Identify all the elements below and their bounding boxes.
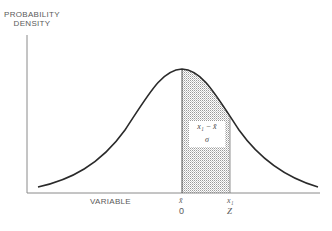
- x1-z-value: Z: [227, 207, 232, 216]
- y-axis-label-line2: DENSITY: [0, 19, 64, 28]
- formula-denominator: σ: [189, 133, 225, 147]
- mean-z-value: 0: [179, 207, 184, 216]
- formula-numerator: x₁ − x̄: [189, 121, 225, 132]
- density-curve: [38, 69, 318, 187]
- x-axis-label: VARIABLE: [90, 197, 131, 206]
- y-axis-label-line1: PROBABILITY: [0, 10, 64, 19]
- x1-symbol: x₁: [227, 196, 234, 205]
- mean-symbol: x̄: [179, 196, 183, 205]
- z-formula: x₁ − x̄ σ: [189, 121, 225, 147]
- normal-distribution-diagram: [0, 0, 332, 231]
- y-axis-label: PROBABILITY DENSITY: [0, 10, 64, 28]
